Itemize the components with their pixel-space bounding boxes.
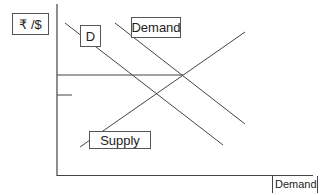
d-curve-label: D <box>80 25 101 47</box>
demand-curve-label: Demand <box>131 17 181 38</box>
x-axis-label: Demand <box>272 176 318 193</box>
y-axis-label: ₹ /$ <box>12 13 49 35</box>
supply-curve-label: Supply <box>89 131 151 149</box>
supply-curve <box>80 32 245 147</box>
